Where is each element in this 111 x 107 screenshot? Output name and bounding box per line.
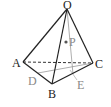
edge-AC-dashed (23, 62, 93, 63)
label-C: C (95, 57, 103, 71)
segment-DC (38, 63, 93, 73)
tetrahedron-diagram: O A B C P D E (0, 0, 111, 107)
label-B: B (48, 87, 56, 101)
label-A: A (12, 56, 21, 70)
edge-OB (52, 9, 67, 84)
point-P-dot (64, 40, 67, 43)
label-D: D (28, 74, 37, 88)
label-E: E (77, 78, 84, 92)
label-P: P (69, 35, 76, 49)
edge-OA (23, 9, 67, 62)
label-O: O (63, 0, 72, 12)
